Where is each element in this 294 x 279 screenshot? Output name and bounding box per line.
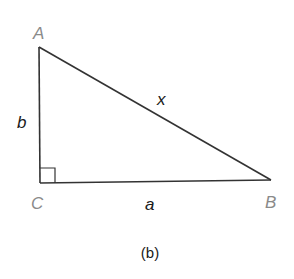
vertex-label-c: C (31, 194, 44, 213)
figure-caption: (b) (141, 244, 159, 261)
vertex-label-a: A (32, 24, 44, 43)
side-x-hypotenuse-line (39, 47, 271, 180)
side-label-a: a (145, 195, 154, 214)
right-triangle-diagram: A C B b x a (b) (0, 0, 294, 279)
side-label-x: x (156, 90, 166, 109)
vertex-label-b: B (265, 193, 276, 212)
side-b-line (39, 47, 40, 183)
side-a-line (40, 180, 271, 183)
right-angle-marker-icon (40, 168, 55, 183)
side-label-b: b (17, 113, 26, 132)
